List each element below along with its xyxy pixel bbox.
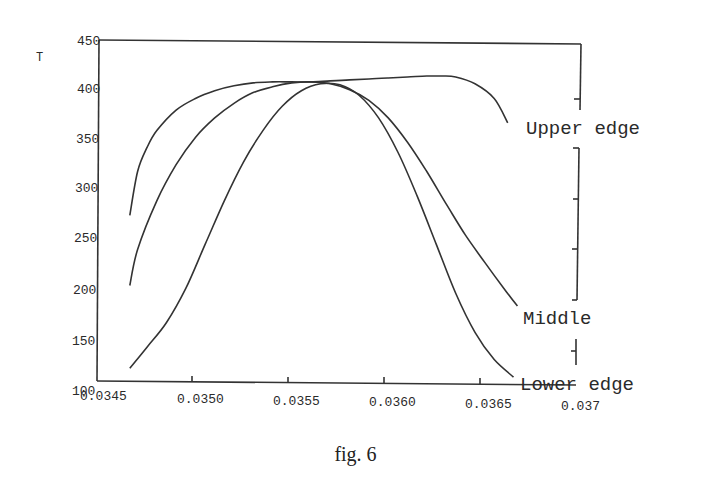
series-label-lower-edge: Lower edge xyxy=(520,374,634,396)
x-axis-bottom xyxy=(97,381,576,385)
series-upper-edge-line xyxy=(130,76,508,215)
x-tick-label: 0.0355 xyxy=(273,394,320,409)
series-lower-edge-line xyxy=(130,83,514,377)
y-tick-label: 300 xyxy=(75,181,98,196)
series-label-upper-edge: Upper edge xyxy=(526,118,640,140)
x-tick-label: 0.0365 xyxy=(465,397,512,412)
series-middle-line xyxy=(130,82,518,306)
x-tick-label: 0.0345 xyxy=(80,389,127,404)
figure-caption: fig. 6 xyxy=(0,443,711,466)
series-label-middle: Middle xyxy=(523,308,591,330)
y-tick-label: 200 xyxy=(73,283,96,298)
line-chart: 450 400 350 300 250 200 150 100 T 0.0345… xyxy=(0,0,711,490)
y-tick-label: 150 xyxy=(72,334,95,349)
y-tick-label: 350 xyxy=(76,132,99,147)
y-tick-label: 400 xyxy=(77,82,100,97)
x-axis-top xyxy=(99,40,581,44)
x-tick-label: 0.0350 xyxy=(177,392,224,407)
y-axis-label: T xyxy=(36,51,43,65)
y-tick-label: 250 xyxy=(74,231,97,246)
right-axis-segment-2 xyxy=(577,148,579,300)
y-tick-label: 450 xyxy=(77,34,100,49)
axes xyxy=(97,40,581,385)
y-tick-labels: 450 400 350 300 250 200 150 100 xyxy=(72,34,100,399)
right-axis-segment-1 xyxy=(580,44,581,110)
x-tick-label: 0.0360 xyxy=(369,395,416,410)
plot-area xyxy=(130,76,518,377)
x-tick-label: 0.037 xyxy=(561,399,600,414)
